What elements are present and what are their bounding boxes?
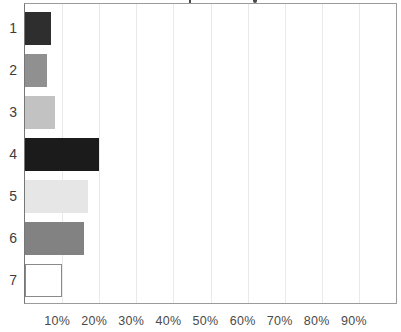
x-axis-tick-label: 50% — [193, 314, 219, 328]
bar — [25, 138, 99, 171]
bar-row — [25, 12, 396, 54]
y-axis-label: 6 — [0, 222, 17, 255]
plot-area — [24, 3, 397, 304]
bar-row — [25, 138, 396, 180]
bar-row — [25, 54, 396, 96]
x-axis-tick-label: 10% — [44, 314, 70, 328]
y-axis-label: 5 — [0, 180, 17, 213]
bar — [25, 12, 51, 45]
y-axis-label: 4 — [0, 138, 17, 171]
x-axis-tick-label: 20% — [81, 314, 107, 328]
bar-series — [25, 12, 396, 303]
bar-chart: 1234567 10%20%30%40%50%60%70%80%90% — [0, 0, 401, 332]
y-axis-label: 1 — [0, 12, 17, 45]
y-axis-label: 3 — [0, 96, 17, 129]
bar — [25, 54, 47, 87]
x-axis-tick-label: 80% — [304, 314, 330, 328]
bar — [25, 222, 84, 255]
bar-row — [25, 264, 396, 303]
x-axis-tick-label: 40% — [155, 314, 181, 328]
bar — [25, 264, 62, 297]
bar — [25, 180, 88, 213]
y-axis-label: 7 — [0, 264, 17, 297]
bar-row — [25, 180, 396, 222]
x-axis-tick-label: 90% — [341, 314, 367, 328]
x-axis-tick-label: 30% — [118, 314, 144, 328]
x-axis: 10%20%30%40%50%60%70%80%90% — [25, 314, 396, 330]
bar-row — [25, 96, 396, 138]
bar — [25, 96, 55, 129]
y-axis-label: 2 — [0, 54, 17, 87]
x-axis-tick-label: 70% — [267, 314, 293, 328]
x-axis-tick-label: 60% — [230, 314, 256, 328]
bar-row — [25, 222, 396, 264]
